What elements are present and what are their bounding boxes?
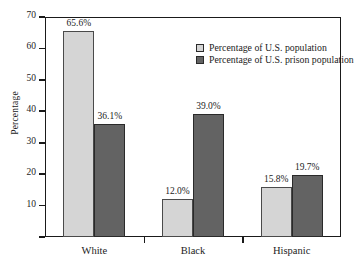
chart-legend: Percentage of U.S. population Percentage… [196,43,354,66]
y-axis-tick-label: 10 [27,199,37,209]
bar-chart: Percentage 10203040506070 65.6%36.1%12.0… [0,0,358,270]
y-axis-tick-mark [39,48,45,50]
legend-label-prison-population: Percentage of U.S. prison population [209,55,354,65]
bar-hispanic-series-1 [292,175,323,237]
bar-white-series-0 [63,31,94,237]
light-gray-swatch-icon [196,44,204,52]
legend-label-population: Percentage of U.S. population [209,43,327,53]
y-axis-tick-mark [39,142,45,144]
bar-black-series-1 [193,114,224,237]
y-axis-tick-label: 70 [27,10,37,20]
legend-item-prison-population: Percentage of U.S. prison population [196,55,354,65]
y-axis-tick-label: 30 [27,136,37,146]
x-axis-label-hispanic: Hispanic [247,245,337,256]
dark-gray-swatch-icon [196,56,204,64]
y-axis-tick-label: 20 [27,167,37,177]
bar-white-series-1 [94,124,125,237]
x-axis-tick-mark [144,237,146,243]
y-axis-tick-mark [39,79,45,81]
y-axis-tick-mark [39,236,45,238]
bar-value-label: 19.7% [287,162,327,172]
bar-value-label: 15.8% [256,174,296,184]
y-axis-tick-mark [39,110,45,112]
bar-value-label: 36.1% [90,111,130,121]
bar-black-series-0 [162,199,193,237]
y-axis-title: Percentage [10,73,20,153]
y-axis-tick-mark [39,173,45,175]
y-axis-tick-mark [39,16,45,18]
bar-value-label: 12.0% [158,186,198,196]
bar-value-label: 39.0% [189,101,229,111]
bar-hispanic-series-0 [261,187,292,237]
legend-item-population: Percentage of U.S. population [196,43,354,53]
bar-value-label: 65.6% [59,18,99,28]
x-axis-label-black: Black [148,245,238,256]
x-axis-tick-mark [242,237,244,243]
plot-area: 10203040506070 65.6%36.1%12.0%39.0%15.8%… [45,17,341,237]
y-axis-tick-mark [39,205,45,207]
y-axis-tick-label: 40 [27,104,37,114]
y-axis-tick-label: 50 [27,73,37,83]
x-axis-label-white: White [49,245,139,256]
y-axis-tick-label: 60 [27,41,37,51]
